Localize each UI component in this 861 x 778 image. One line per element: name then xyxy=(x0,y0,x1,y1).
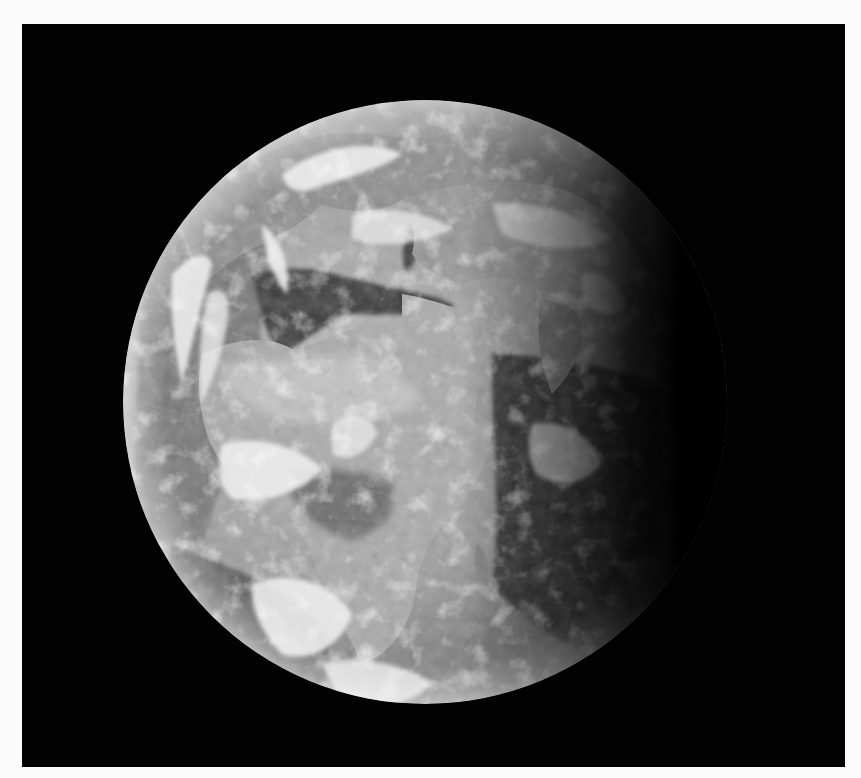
earth-globe xyxy=(22,24,845,767)
night-side-shadow xyxy=(122,84,742,724)
space-photo: Black-and-white photograph of Earth from… xyxy=(22,24,845,767)
